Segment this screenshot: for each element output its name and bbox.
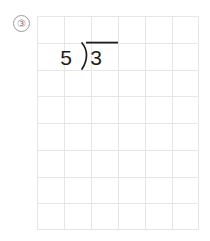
long-division-expression: 5 3: [60, 38, 122, 72]
worksheet-page: ③: [0, 0, 210, 241]
dividend-digit: 3: [90, 46, 102, 69]
divisor-digit: 5: [60, 46, 72, 69]
division-bracket-icon: [82, 43, 87, 69]
problem-number-marker: ③: [13, 15, 30, 32]
